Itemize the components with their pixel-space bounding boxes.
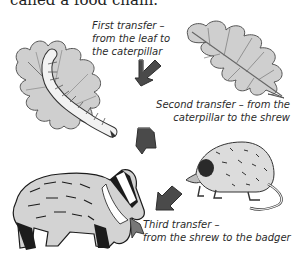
badger-icon [13, 170, 144, 250]
caption-line: Second transfer – from the [141, 98, 290, 111]
third-transfer-caption: Third transfer – from the shrew to the b… [143, 218, 291, 244]
transfer-arrow-1-icon [133, 58, 163, 88]
oak-leaf-illustration [180, 18, 294, 100]
transfer-arrow-2-icon [134, 126, 158, 156]
caption-line: the caterpillar [92, 45, 170, 58]
caption-line: caterpillar to the shrew [141, 111, 290, 124]
shrew-icon [186, 142, 282, 209]
badger-illustration [10, 162, 148, 258]
caption-line: Third transfer – [143, 218, 291, 231]
second-transfer-caption: Second transfer – from the caterpillar t… [141, 98, 290, 124]
first-transfer-caption: First transfer – from the leaf to the ca… [92, 19, 170, 58]
shrew-illustration [186, 138, 294, 212]
intro-text: called a food chain. [10, 0, 158, 9]
caption-line: from the shrew to the badger [143, 231, 291, 244]
caption-line: First transfer – [92, 19, 170, 32]
transfer-arrow-3-icon [154, 184, 186, 212]
caption-line: from the leaf to [92, 32, 170, 45]
oak-leaf-right-icon [187, 21, 284, 98]
